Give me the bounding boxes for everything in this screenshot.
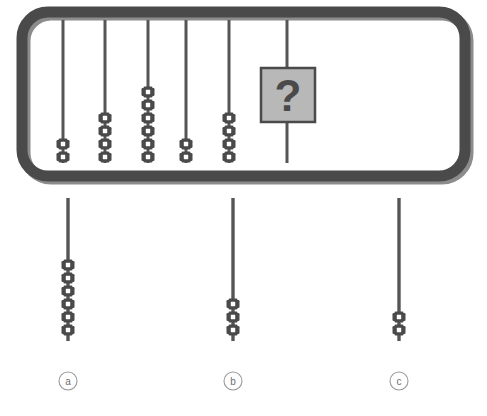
rod-1-bead-1	[57, 152, 70, 163]
rod-4-bead-2	[180, 139, 193, 150]
rod-3-bead-1	[142, 152, 155, 163]
option-a-bead-2	[62, 312, 75, 323]
option-b-bead-1	[227, 325, 240, 336]
abacus-frame	[22, 12, 465, 176]
option-b-bead-3	[227, 299, 240, 310]
rod-5-bead-2	[223, 139, 236, 150]
answer-options-layer: abc	[59, 198, 408, 390]
option-c-bead-1	[393, 325, 406, 336]
option-a-bead-6	[62, 260, 75, 271]
option-a-bead-3	[62, 299, 75, 310]
abacus-rods-layer	[57, 20, 288, 163]
option-a-label-text: a	[65, 376, 71, 387]
option-a[interactable]: a	[59, 198, 77, 390]
question-box: ?	[261, 68, 315, 122]
puzzle-canvas: ? abc	[0, 0, 487, 416]
option-c[interactable]: c	[390, 198, 408, 390]
rod-3-bead-6	[142, 87, 155, 98]
rod-2-bead-2	[99, 139, 112, 150]
rod-1-bead-2	[57, 139, 70, 150]
rod-2-bead-4	[99, 113, 112, 124]
rod-3-bead-3	[142, 126, 155, 137]
rod-2	[99, 20, 112, 163]
rod-5-bead-3	[223, 126, 236, 137]
rod-3	[142, 20, 155, 163]
rod-4-bead-1	[180, 152, 193, 163]
rod-3-bead-5	[142, 100, 155, 111]
rod-1	[57, 20, 70, 163]
rod-3-bead-4	[142, 113, 155, 124]
question-mark-symbol: ?	[275, 71, 302, 120]
rod-5-bead-1	[223, 152, 236, 163]
rod-4	[180, 20, 193, 163]
option-c-bead-2	[393, 312, 406, 323]
option-b[interactable]: b	[224, 198, 242, 390]
rod-2-bead-1	[99, 152, 112, 163]
option-b-label-text: b	[230, 376, 236, 387]
option-a-bead-1	[62, 325, 75, 336]
rod-5	[223, 20, 236, 163]
rod-3-bead-2	[142, 139, 155, 150]
abacus-frame-group	[22, 12, 468, 179]
option-c-label-text: c	[397, 376, 402, 387]
rod-2-bead-3	[99, 126, 112, 137]
option-a-bead-4	[62, 286, 75, 297]
option-b-bead-2	[227, 312, 240, 323]
abacus-puzzle-figure: ? abc	[0, 0, 487, 416]
abacus-frame-shadow	[25, 15, 468, 179]
question-box-layer: ?	[261, 68, 315, 122]
option-a-bead-5	[62, 273, 75, 284]
rod-5-bead-4	[223, 113, 236, 124]
